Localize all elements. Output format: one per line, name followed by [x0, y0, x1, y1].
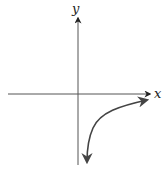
- graph-svg: x y: [0, 0, 163, 171]
- graph-figure: x y: [0, 0, 163, 171]
- y-axis-label: y: [71, 1, 80, 16]
- x-axis-label: x: [154, 86, 162, 101]
- function-curve: [87, 100, 147, 162]
